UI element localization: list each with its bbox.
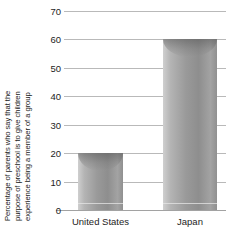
plot-area: 010203040506070 [42, 0, 226, 211]
x-axis-label-japan: Japan [140, 216, 226, 227]
bar-highlight-line [163, 203, 217, 204]
y-axis-tick-label: 40 [39, 91, 61, 102]
y-axis-tick-label: 20 [39, 148, 61, 159]
y-axis-label-line-3: experience being a member of a group [24, 92, 32, 221]
y-axis-tick-label: 30 [39, 119, 61, 130]
y-axis-label: Percentage of parents who say that the p… [0, 0, 42, 235]
bar-cylinder-top [163, 39, 217, 57]
gridline [64, 11, 226, 12]
bar-japan [163, 39, 217, 210]
bar-chart: Percentage of parents who say that the p… [0, 0, 226, 235]
bar-united-states [78, 153, 123, 210]
bar-cylinder-top [78, 153, 123, 171]
y-axis-label-line-2: purpose of preschool is to give children [14, 91, 22, 221]
y-axis-tick-label: 60 [39, 34, 61, 45]
axis-baseline [56, 210, 226, 211]
y-axis-tick-label: 0 [39, 205, 61, 216]
y-axis-label-line-1: Percentage of parents who say that the [4, 91, 12, 221]
y-axis-tick-label: 70 [39, 6, 61, 17]
y-axis-tick-label: 10 [39, 176, 61, 187]
bar-highlight-line [78, 203, 123, 204]
x-axis-label-united-states: United States [51, 216, 151, 227]
y-axis-tick-label: 50 [39, 62, 61, 73]
